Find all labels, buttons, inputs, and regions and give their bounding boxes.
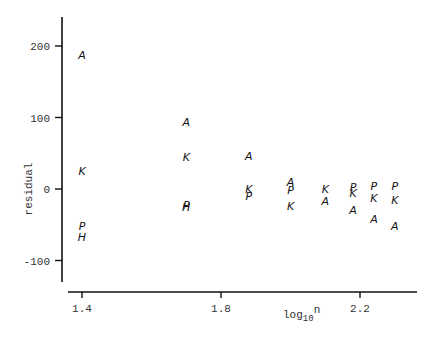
x-axis-label: log10n — [283, 304, 320, 324]
data-point-p: P — [287, 184, 294, 197]
data-point-k: K — [322, 183, 330, 196]
data-point-k: K — [183, 151, 191, 164]
y-tick-label: 0 — [43, 184, 50, 196]
y-axis-label: residual — [23, 163, 35, 216]
data-point-a: A — [320, 195, 329, 208]
y-ticks: -1000100200 — [24, 41, 62, 268]
axes — [62, 17, 417, 292]
data-point-p: P — [350, 181, 357, 194]
data-point-k: K — [287, 200, 295, 213]
data-point-p: P — [391, 180, 398, 193]
data-point-h: H — [182, 201, 190, 214]
data-points: AAAAAAAAKKKKKKKKPPPPPPPHH — [77, 49, 399, 244]
data-point-a: A — [369, 213, 378, 226]
data-point-a: A — [244, 150, 253, 163]
x-tick-label: 1.4 — [72, 303, 92, 315]
data-point-p: P — [371, 180, 378, 193]
data-point-k: K — [391, 194, 399, 207]
x-tick-label: 1.8 — [211, 303, 231, 315]
data-point-a: A — [348, 204, 357, 217]
y-tick-label: 200 — [30, 41, 50, 53]
x-tick-label: 2.2 — [350, 303, 370, 315]
y-tick-label: -100 — [24, 256, 50, 268]
data-point-k: K — [78, 165, 86, 178]
y-tick-label: 100 — [30, 113, 50, 125]
x-ticks: 1.41.82.2 — [72, 292, 370, 315]
data-point-k: K — [370, 192, 378, 205]
data-point-a: A — [390, 220, 399, 233]
scatter-chart: -1000100200 1.41.82.2 residual log10n AA… — [0, 0, 437, 337]
data-point-h: H — [78, 231, 86, 244]
data-point-a: A — [77, 49, 86, 62]
data-point-p: P — [245, 190, 252, 203]
data-point-a: A — [181, 116, 190, 129]
